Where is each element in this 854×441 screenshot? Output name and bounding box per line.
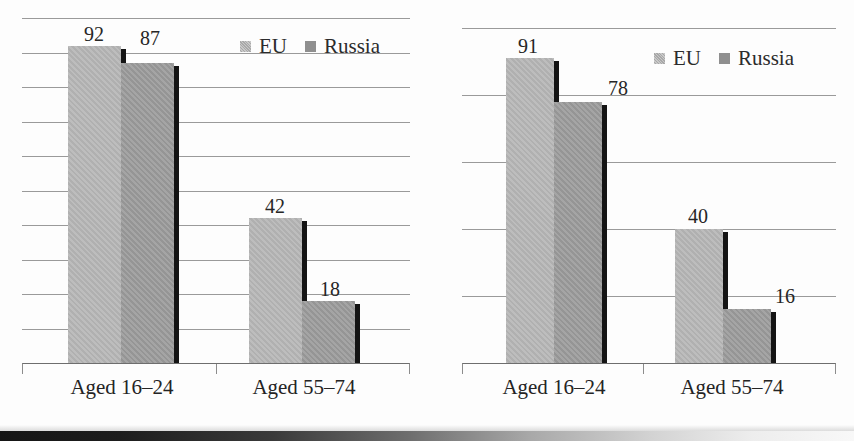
category-label-aged-55-74: Aged 55–74 (234, 376, 374, 399)
bar-russia-aged-55-74[interactable] (723, 309, 771, 363)
data-label-russia-aged-16-24: 78 (608, 78, 628, 98)
category-label-aged-16-24: Aged 16–24 (52, 376, 192, 399)
legend-entry-russia[interactable]: Russia (719, 48, 794, 69)
chart-right: 91 78 40 16 EU Russia Aged 16–24 Aged 55… (462, 0, 854, 412)
bar-russia-aged-55-74[interactable] (302, 301, 355, 363)
legend-right: EU Russia (654, 48, 794, 69)
category-labels-left: Aged 16–24 Aged 55–74 (22, 376, 422, 406)
bar-eu-aged-55-74[interactable] (675, 229, 723, 363)
x-axis-left (22, 363, 410, 374)
bar-russia-aged-16-24[interactable] (121, 63, 174, 363)
chart-left: 92 87 42 18 EU Russia Aged 16–24 Aged 55… (22, 0, 422, 412)
legend-left: EU Russia (240, 36, 380, 57)
bar-groups-right (462, 28, 854, 363)
legend-entry-russia[interactable]: Russia (305, 36, 380, 57)
bar-groups-left (22, 18, 422, 363)
bar-eu-aged-55-74[interactable] (249, 218, 302, 363)
data-label-russia-aged-55-74: 16 (775, 286, 795, 306)
plot-area-right: 91 78 40 16 (462, 28, 854, 363)
russia-swatch-icon (719, 53, 730, 64)
data-label-russia-aged-55-74: 18 (320, 279, 340, 299)
bar-shadow (602, 105, 607, 363)
x-axis-right (462, 363, 836, 374)
scanned-page: 92 87 42 18 EU Russia Aged 16–24 Aged 55… (0, 0, 854, 441)
data-label-russia-aged-16-24: 87 (140, 28, 160, 48)
bar-shadow (174, 66, 179, 363)
bar-eu-aged-16-24[interactable] (68, 46, 121, 363)
data-label-eu-aged-55-74: 42 (265, 196, 285, 216)
category-label-aged-55-74: Aged 55–74 (662, 376, 802, 399)
data-label-eu-aged-16-24: 91 (518, 36, 538, 56)
legend-entry-eu[interactable]: EU (240, 36, 287, 57)
eu-swatch-icon (654, 53, 665, 64)
scan-artifact-band (0, 431, 854, 441)
plot-area-left: 92 87 42 18 (22, 18, 422, 363)
data-label-eu-aged-55-74: 40 (688, 206, 708, 226)
axis-tick (643, 364, 644, 374)
bar-russia-aged-16-24[interactable] (554, 102, 602, 363)
legend-label-russia: Russia (324, 36, 380, 57)
legend-label-eu: EU (259, 36, 287, 57)
bar-eu-aged-16-24[interactable] (506, 58, 554, 363)
legend-label-eu: EU (673, 48, 701, 69)
data-label-eu-aged-16-24: 92 (84, 24, 104, 44)
russia-swatch-icon (305, 41, 316, 52)
legend-entry-eu[interactable]: EU (654, 48, 701, 69)
axis-tick (216, 364, 217, 374)
legend-label-russia: Russia (738, 48, 794, 69)
bar-shadow (355, 304, 360, 363)
eu-swatch-icon (240, 41, 251, 52)
category-label-aged-16-24: Aged 16–24 (484, 376, 624, 399)
category-labels-right: Aged 16–24 Aged 55–74 (462, 376, 854, 406)
bar-shadow (771, 312, 776, 363)
